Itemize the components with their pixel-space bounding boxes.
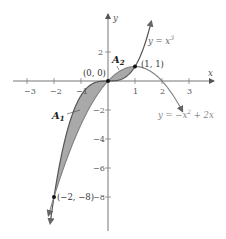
y-tick-label: −2 — [93, 106, 105, 115]
point-1-1 — [133, 65, 137, 69]
x-tick-label: 2 — [160, 87, 165, 96]
point-1-1-label: (1, 1) — [141, 59, 164, 69]
point-origin — [106, 79, 110, 83]
point-m2-m8 — [52, 195, 56, 199]
area-a1-label: A1 — [51, 110, 65, 123]
y-tick-label: 2 — [98, 48, 103, 57]
x-tick-label: 1 — [133, 87, 138, 96]
cubic-equation-label: y = x3 — [147, 34, 174, 46]
area-a2-label: A2 — [111, 54, 125, 67]
origin-point-label: (0, 0) — [83, 68, 106, 78]
x-tick-label: 3 — [187, 87, 192, 96]
y-tick-label: −4 — [93, 135, 105, 144]
a2-leader-line — [117, 66, 119, 70]
area-between-curves-chart: −3 −2 −1 1 2 3 2 −2 −4 −6 −8 x y (0, 0) … — [0, 0, 226, 239]
parabola-equation-label: y = −x2 + 2x — [157, 108, 214, 120]
y-tick-label: −8 — [93, 193, 105, 202]
point-m2-m8-label: (−2, −8) — [57, 192, 94, 202]
x-tick-label: −3 — [24, 87, 36, 96]
x-axis-label: x — [208, 68, 213, 78]
x-tick-label: −2 — [50, 87, 62, 96]
y-tick-label: −6 — [93, 164, 105, 173]
curve-cubic-lower-arrow — [50, 197, 54, 223]
y-axis-label: y — [112, 13, 118, 23]
